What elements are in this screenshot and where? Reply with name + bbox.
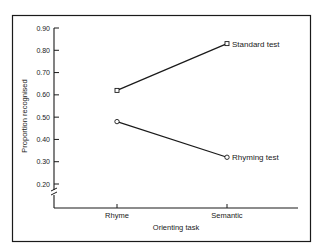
x-axis-title: Orienting task — [153, 223, 200, 232]
data-point-circle — [225, 155, 229, 159]
y-tick-label: 0.30 — [36, 158, 50, 165]
y-tick-label: 0.80 — [36, 47, 50, 54]
data-point-square — [225, 42, 229, 46]
axes: RhymeSemantic — [51, 28, 298, 220]
data-point-circle — [115, 119, 119, 123]
y-ticks: 0.200.300.400.500.600.700.800.90 — [36, 25, 59, 188]
y-tick-label: 0.60 — [36, 91, 50, 98]
axis-break-mark — [51, 192, 57, 195]
y-axis-title: Proportion recognised — [20, 79, 29, 152]
series-line — [117, 44, 227, 91]
x-tick-label: Semantic — [211, 211, 243, 220]
y-tick-label: 0.40 — [36, 136, 50, 143]
series-group: Standard testRhyming test — [115, 40, 281, 163]
y-tick-label: 0.70 — [36, 69, 50, 76]
y-tick-label: 0.90 — [36, 25, 50, 32]
series-label: Rhyming test — [232, 153, 279, 162]
line-chart: RhymeSemantic 0.200.300.400.500.600.700.… — [0, 0, 322, 250]
y-tick-label: 0.20 — [36, 181, 50, 188]
x-tick-label: Rhyme — [105, 211, 129, 220]
y-tick-label: 0.50 — [36, 114, 50, 121]
data-point-square — [115, 88, 119, 92]
series-line — [117, 122, 227, 158]
series-label: Standard test — [232, 40, 280, 49]
